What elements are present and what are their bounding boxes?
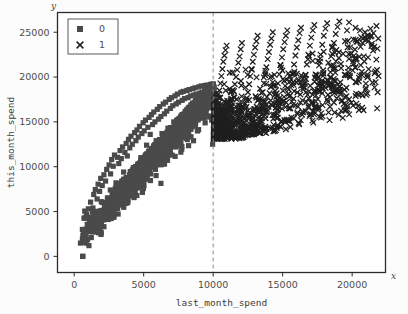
data-point-square	[81, 228, 86, 233]
x-tick-label: 5000	[132, 279, 156, 290]
data-point-square	[117, 181, 122, 186]
scatter-plot: 0500010000150002000005000100001500020000…	[0, 0, 408, 314]
data-point-square	[121, 169, 126, 174]
data-point-square	[97, 189, 102, 194]
data-point-square	[81, 234, 86, 239]
data-point-square	[155, 151, 160, 156]
data-point-square	[125, 153, 130, 158]
data-point-square	[203, 120, 208, 125]
data-point-square	[153, 173, 158, 178]
x-axis-title: last_month_spend	[176, 297, 268, 308]
data-point-square	[169, 141, 174, 146]
legend[interactable]: 01	[68, 19, 118, 54]
data-point-square	[158, 181, 163, 186]
data-point-square	[191, 138, 196, 143]
data-point-square	[170, 127, 175, 132]
figure-canvas: 0500010000150002000005000100001500020000…	[0, 0, 408, 314]
data-point-square	[202, 114, 207, 119]
data-point-square	[136, 180, 141, 185]
data-point-square	[107, 210, 112, 215]
data-point-square	[90, 205, 95, 210]
data-point-square	[125, 176, 130, 181]
data-point-square	[99, 199, 104, 204]
data-point-square	[210, 142, 215, 147]
data-point-square	[108, 187, 113, 192]
data-point-square	[202, 88, 207, 93]
data-point-square	[148, 171, 153, 176]
data-point-square	[100, 183, 105, 188]
data-point-square	[116, 161, 121, 166]
data-point-square	[141, 179, 146, 184]
data-point-square	[114, 188, 119, 193]
data-point-square	[111, 164, 116, 169]
data-point-square	[175, 141, 180, 146]
data-point-square	[123, 191, 128, 196]
x-tick-label: 10000	[198, 279, 228, 290]
data-point-square	[181, 136, 186, 141]
data-point-square	[184, 115, 189, 120]
data-point-square	[179, 121, 184, 126]
x-tick-label: 0	[71, 279, 77, 290]
data-point-square	[180, 112, 185, 117]
y-axis-title: this_month_spend	[5, 97, 16, 189]
data-point-square	[165, 134, 170, 139]
legend-entry-label: 1	[99, 39, 105, 50]
data-point-square	[116, 211, 121, 216]
data-point-square	[190, 110, 195, 115]
data-point-square	[108, 171, 113, 176]
data-point-square	[81, 239, 86, 244]
data-point-square	[129, 182, 134, 187]
data-point-square	[175, 135, 180, 140]
y-tick-label: 5000	[25, 206, 49, 217]
x-axis-letter: x	[391, 271, 396, 281]
y-tick-label: 0	[43, 251, 49, 262]
data-point-square	[104, 167, 109, 172]
figure-container: 0500010000150002000005000100001500020000…	[0, 0, 408, 314]
data-point-square	[197, 112, 202, 117]
data-point-square	[103, 178, 108, 183]
data-point-square	[94, 229, 99, 234]
data-point-square	[80, 254, 85, 259]
data-point-square	[144, 143, 149, 148]
data-point-square	[88, 200, 93, 205]
data-point-square	[84, 212, 89, 217]
data-point-square	[159, 146, 164, 151]
data-point-square	[186, 143, 191, 148]
data-point-square	[190, 104, 195, 109]
data-point-square	[117, 200, 122, 205]
data-point-square	[161, 140, 166, 145]
legend-marker-square	[77, 26, 83, 32]
y-tick-label: 15000	[19, 116, 49, 127]
data-point-square	[91, 192, 96, 197]
y-tick-label: 20000	[19, 71, 49, 82]
data-point-square	[198, 97, 203, 102]
legend-box	[68, 19, 118, 54]
data-point-square	[101, 172, 106, 177]
data-point-square	[143, 173, 148, 178]
y-tick-label: 10000	[19, 161, 49, 172]
data-point-square	[184, 121, 189, 126]
data-point-square	[148, 132, 153, 137]
data-point-square	[119, 156, 124, 161]
data-point-square	[86, 243, 91, 248]
x-tick-label: 20000	[337, 279, 367, 290]
data-point-square	[144, 152, 149, 157]
data-point-square	[103, 207, 108, 212]
y-tick-label: 25000	[19, 27, 49, 38]
data-point-square	[153, 142, 158, 147]
data-point-square	[173, 154, 178, 159]
data-point-square	[179, 147, 184, 152]
data-point-square	[109, 203, 114, 208]
data-point-square	[109, 157, 114, 162]
data-point-square	[177, 128, 182, 133]
data-point-square	[94, 216, 99, 221]
y-axis-letter: y	[50, 1, 57, 11]
data-point-square	[142, 161, 147, 166]
data-point-square	[162, 161, 167, 166]
data-point-square	[130, 170, 135, 175]
data-point-square	[164, 148, 169, 153]
data-point-square	[182, 128, 187, 133]
data-point-square	[112, 198, 117, 203]
legend-entry-label: 0	[99, 23, 105, 34]
data-point-square	[145, 125, 150, 130]
